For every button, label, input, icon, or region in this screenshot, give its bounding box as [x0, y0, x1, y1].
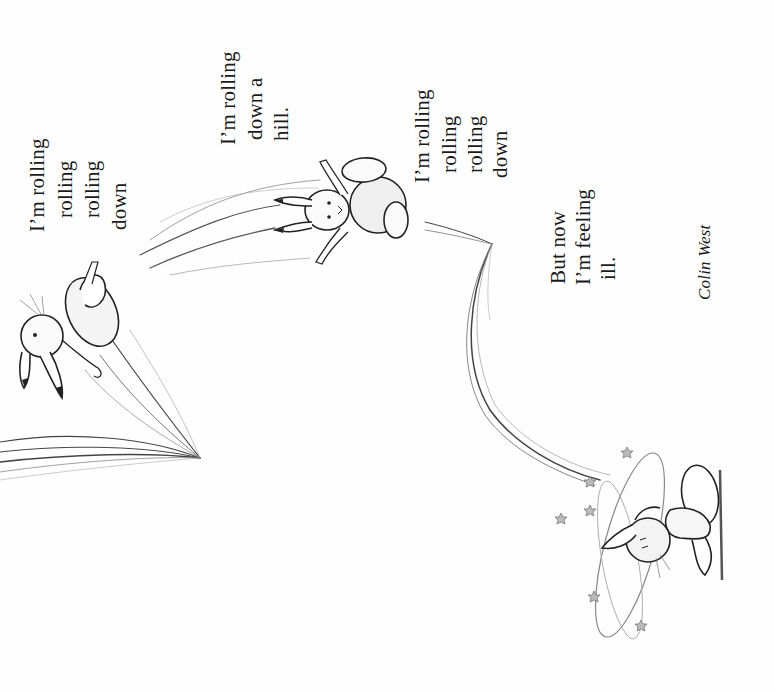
book-page: I’m rolling rolling rolling down I’m rol…	[0, 0, 775, 692]
poem-line: I’m feeling	[573, 189, 594, 285]
poem-line: I’m rolling	[412, 89, 433, 183]
poem-line: I’m rolling	[27, 138, 48, 232]
poem-line: down a	[245, 78, 266, 140]
poem-line: But now	[548, 211, 569, 284]
rabbit-rolling-1-icon	[20, 262, 129, 398]
poem-line: ill.	[598, 256, 619, 280]
poem-line: rolling	[55, 161, 76, 218]
poem-line: down	[490, 131, 511, 178]
poem-line: rolling	[465, 116, 486, 173]
illustration-layer	[0, 0, 775, 692]
poem-line: I’m rolling	[218, 51, 239, 145]
author-name: Colin West	[696, 224, 713, 300]
poem-line: down	[109, 183, 130, 230]
rabbit-rolling-2-icon	[275, 156, 408, 264]
poem-line: rolling	[82, 161, 103, 218]
poem-line: rolling	[439, 116, 460, 173]
rabbit-dizzy-icon	[581, 447, 723, 643]
poem-line: hill.	[271, 107, 292, 141]
